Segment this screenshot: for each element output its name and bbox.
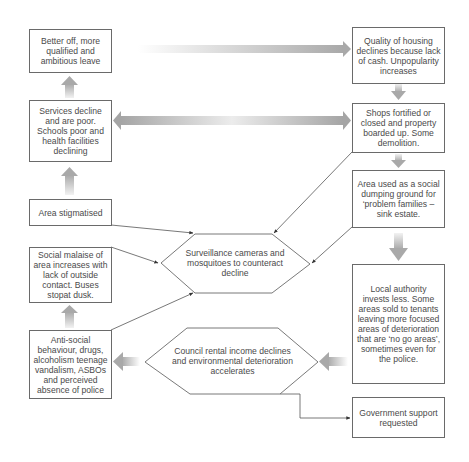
- node-dumping-ground-label: Area used as a social dumping ground for…: [356, 179, 441, 219]
- node-shops-fortified-label: Shops fortified or closed and property b…: [356, 108, 441, 148]
- node-quality-housing: Quality of housing declines because lack…: [352, 27, 445, 84]
- node-social-malaise: Social malaise of area increases with la…: [29, 247, 112, 303]
- line-dumping-to-surveillance: [312, 227, 352, 263]
- node-quality-housing-label: Quality of housing declines because lack…: [356, 36, 441, 76]
- arrow-services-to-better-off: [61, 76, 78, 98]
- line-anti-social-to-surveillance: [111, 293, 193, 330]
- node-services-decline-label: Services decline and are poor. Schools p…: [33, 106, 108, 156]
- node-anti-social-label: Anti-social behaviour, drugs, alcoholism…: [33, 335, 108, 395]
- node-surveillance-label: Surveillance cameras and mosquitoes to c…: [185, 248, 285, 278]
- node-better-off: Better off, more qualified and ambitious…: [29, 29, 112, 73]
- node-surveillance: Surveillance cameras and mosquitoes to c…: [185, 240, 285, 286]
- arrow-shops-to-dumping: [391, 154, 406, 168]
- node-council-rental: Council rental income declines and envir…: [170, 338, 295, 384]
- node-anti-social: Anti-social behaviour, drugs, alcoholism…: [29, 330, 112, 399]
- node-area-stigmatised-label: Area stigmatised: [38, 208, 102, 218]
- node-local-authority: Local authority invests less. Some areas…: [352, 264, 445, 384]
- line-social-malaise-to-surveillance: [111, 247, 158, 263]
- line-stigmatised-to-surveillance: [111, 225, 193, 233]
- node-shops-fortified: Shops fortified or closed and property b…: [352, 103, 445, 153]
- node-better-off-label: Better off, more qualified and ambitious…: [33, 36, 108, 66]
- arrow-dumping-to-local-authority: [389, 233, 408, 261]
- arrow-council-rental-to-anti-social: [113, 352, 140, 371]
- node-services-decline: Services decline and are poor. Schools p…: [29, 100, 112, 162]
- node-local-authority-label: Local authority invests less. Some areas…: [356, 284, 441, 364]
- arrow-stigmatised-to-services: [61, 167, 78, 195]
- node-social-malaise-label: Social malaise of area increases with la…: [33, 250, 108, 300]
- node-council-rental-label: Council rental income declines and envir…: [170, 346, 295, 376]
- node-government-support-label: Government support requested: [356, 408, 441, 428]
- node-area-stigmatised: Area stigmatised: [29, 199, 112, 226]
- arrow-better-off-to-housing: [138, 41, 351, 57]
- node-dumping-ground: Area used as a social dumping ground for…: [352, 170, 445, 228]
- line-shops-to-surveillance: [274, 152, 352, 233]
- diagram-canvas: Better off, more qualified and ambitious…: [0, 0, 469, 462]
- line-council-rental-to-government: [280, 394, 350, 418]
- arrow-local-authority-to-council-rental: [319, 352, 348, 371]
- double-arrow-services-shops: [113, 111, 351, 130]
- arrow-anti-social-to-social-malaise: [61, 305, 78, 328]
- arrow-housing-to-shops: [391, 84, 406, 100]
- node-government-support: Government support requested: [352, 397, 445, 438]
